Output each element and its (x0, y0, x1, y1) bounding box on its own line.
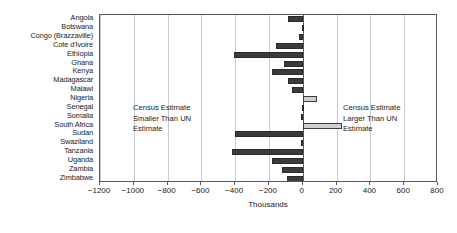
bar (302, 25, 304, 31)
x-axis-tick (200, 182, 201, 185)
y-axis-label: Zambia (0, 164, 96, 173)
x-axis-tick-label: −1200 (88, 186, 110, 195)
y-axis-label: Somalia (0, 111, 96, 120)
bar (272, 158, 303, 164)
bar (302, 105, 304, 111)
bar-row (100, 50, 436, 59)
bar (292, 87, 303, 93)
bar (282, 167, 303, 173)
x-axis-tick (167, 182, 168, 185)
x-axis-tick (268, 182, 269, 185)
left-annotation: Census EstimateSmaller Than UNEstimate (133, 103, 191, 135)
x-axis-tick-label: 0 (300, 186, 304, 195)
bar (299, 34, 302, 40)
x-axis-tick (302, 182, 303, 185)
annotation-line: Larger Than UN (343, 114, 400, 125)
bar-row (100, 165, 436, 174)
bar-row (100, 148, 436, 157)
bar (234, 52, 302, 58)
bar (287, 176, 303, 182)
x-axis-tick (403, 182, 404, 185)
x-axis-tick-label: −200 (259, 186, 277, 195)
plot-area: Census EstimateSmaller Than UNEstimate C… (99, 14, 437, 182)
x-axis-tick-label: −400 (225, 186, 243, 195)
x-axis-tick (437, 182, 438, 185)
x-axis-tick (234, 182, 235, 185)
x-axis-tick (133, 182, 134, 185)
x-axis-tick-label: −1000 (122, 186, 144, 195)
bar (303, 123, 342, 129)
x-axis-tick (369, 182, 370, 185)
x-axis-tick-label: 200 (329, 186, 342, 195)
chart-figure: AngolaBotswanaCongo (Brazzaville)Cote d'… (0, 0, 457, 233)
bar (303, 96, 317, 102)
bar (272, 69, 302, 75)
x-axis-tick-label: 400 (363, 186, 376, 195)
bar (301, 114, 303, 120)
x-axis-title: Thousands (99, 200, 437, 210)
bar-row (100, 33, 436, 42)
bar-row (100, 68, 436, 77)
annotation-line: Census Estimate (133, 103, 191, 114)
x-axis-tick (336, 182, 337, 185)
y-axis-label: Ethiopia (0, 49, 96, 58)
bar-row (100, 15, 436, 24)
annotation-line: Smaller Than UN (133, 114, 191, 125)
annotation-line: Estimate (133, 124, 191, 135)
annotation-line: Census Estimate (343, 103, 400, 114)
bar (235, 131, 303, 137)
bar-row (100, 156, 436, 165)
bar-series (100, 15, 436, 181)
right-annotation: Census EstimateLarger Than UNEstimate (343, 103, 400, 135)
bar (276, 43, 303, 49)
bar-row (100, 139, 436, 148)
y-axis-category-labels: AngolaBotswanaCongo (Brazzaville)Cote d'… (0, 14, 96, 182)
bar (288, 16, 303, 22)
bar (284, 61, 303, 67)
bar-row (100, 42, 436, 51)
bar-row (100, 77, 436, 86)
annotation-line: Estimate (343, 124, 400, 135)
bar-row (100, 174, 436, 182)
bar-row (100, 59, 436, 68)
y-axis-label: Senegal (0, 102, 96, 111)
bar-row (100, 86, 436, 95)
x-axis-tick (99, 182, 100, 185)
x-axis-tick-label: −600 (191, 186, 209, 195)
bar (232, 149, 303, 155)
x-axis-tick-label: 800 (430, 186, 443, 195)
bar (288, 78, 302, 84)
x-axis-tick-label: −800 (158, 186, 176, 195)
y-axis-label: Zimbabwe (0, 173, 96, 182)
bar-row (100, 24, 436, 33)
bar (301, 140, 303, 146)
x-axis-tick-label: 600 (397, 186, 410, 195)
x-axis: −1200−1000−800−600−400−2000200400600800 (99, 182, 437, 200)
